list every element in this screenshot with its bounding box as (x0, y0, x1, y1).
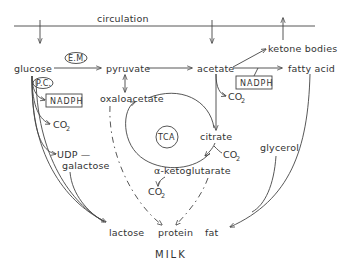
node-ketone-bodies: ketone bodies (268, 43, 337, 54)
akg-to-protein-arrow (176, 178, 208, 225)
citrate-to-akg-arrow (205, 143, 215, 156)
node-fat: fat (205, 227, 219, 238)
nadph-right-label: NADPH (240, 79, 273, 88)
glycerol-to-fat-line (252, 156, 276, 212)
pc-label: P.C. (36, 79, 51, 88)
node-glycerol: glycerol (260, 142, 299, 153)
em-label: E.M. (68, 54, 86, 63)
acetate-to-co2-arrow (216, 74, 226, 96)
node-acetate: acetate (197, 63, 234, 74)
nadph-right-link (254, 68, 258, 76)
node-pyruvate: pyruvate (106, 63, 150, 74)
node-udp: UDP — (57, 149, 91, 160)
node-alpha-ketoglutarate: α-ketoglutarate (154, 165, 231, 176)
node-protein: protein (158, 227, 193, 238)
acetate-to-ketone-arrow (233, 49, 266, 67)
milk-synthesis-diagram: circulation glucose pyruvate acetate fat… (0, 0, 340, 268)
citrate-co2-link (214, 146, 222, 153)
node-galactose: galactose (62, 160, 110, 171)
svg-text:2: 2 (236, 155, 241, 163)
tca-label: TCA (157, 133, 175, 142)
svg-text:2: 2 (161, 192, 166, 200)
node-glucose: glucose (14, 63, 52, 74)
node-lactose: lactose (109, 227, 144, 238)
akg-to-co2-arrow (158, 177, 165, 186)
node-citrate: citrate (200, 131, 232, 142)
nadph-left-label: NADPH (50, 97, 83, 106)
svg-text:2: 2 (241, 97, 246, 105)
node-fatty-acid: fatty acid (288, 63, 335, 74)
node-oxaloacetate: oxaloacetate (100, 93, 164, 104)
milk-label: MILK (155, 249, 187, 260)
svg-text:2: 2 (66, 125, 71, 133)
circulation-label: circulation (97, 13, 149, 24)
